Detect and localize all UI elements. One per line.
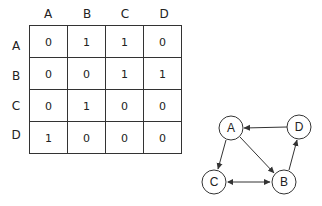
node-label-d: D [295, 120, 304, 134]
directed-graph: A D C B [0, 0, 322, 206]
edge-d-to-a [244, 127, 287, 128]
node-b: B [272, 170, 296, 194]
edge-a-to-c [218, 140, 226, 169]
edge-b-to-d [289, 140, 297, 170]
node-c: C [202, 170, 226, 194]
node-a: A [219, 116, 243, 140]
edge-b-to-c-arrowhead [227, 179, 233, 185]
edge-a-to-b [240, 137, 274, 173]
node-label-c: C [210, 175, 219, 189]
node-label-a: A [227, 121, 235, 135]
node-d: D [287, 115, 311, 139]
node-label-b: B [280, 175, 288, 189]
